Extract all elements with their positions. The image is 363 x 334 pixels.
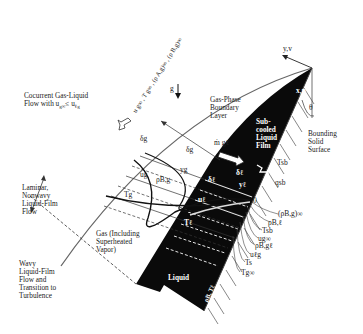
delta-g-mid-label: δg — [186, 145, 193, 154]
gas-region-label: Gas (Including Superheated Vapor) — [96, 230, 140, 254]
liquid-region-label: Liquid — [168, 274, 189, 282]
y-l-label: yℓ — [239, 180, 246, 189]
u-l-label: uℓ — [198, 195, 205, 204]
u-g-label: ug — [140, 170, 148, 179]
mdot-label: ṁ gℓ — [214, 138, 229, 147]
flow-description-label: Cocurrent Gas-Liquid Flow with ug∞≤ uℓg — [24, 92, 88, 111]
gas-boundary-layer-label: Gas-Phase Boundary Layer — [210, 96, 241, 120]
delta-l-right-label: δℓ — [236, 168, 243, 177]
t-l-label: Tℓ — [184, 218, 192, 227]
delta-g-top-label: δg — [140, 134, 147, 143]
delta-l-left-label: δℓ — [208, 175, 215, 184]
rho-bg-label: ρB,g — [156, 175, 170, 184]
wavy-region-label: Wavy Liquid-Film Flow and Transition to … — [19, 260, 56, 300]
t-g-label: Tg — [124, 190, 132, 199]
y-axis-arrow — [284, 56, 312, 68]
x-axis-label: x,u — [296, 86, 306, 95]
delta-g-dimension — [161, 121, 220, 160]
laminar-region-label: Laminar, Nonwavy Liquid-Film Flow — [22, 184, 58, 216]
bounding-solid-surface-label: Bounding Solid Surface — [308, 130, 337, 154]
legend-item-t-s: Ts — [245, 258, 252, 267]
legend-item-rho-bgl: ρB,gℓ — [255, 241, 273, 250]
subcooled-liquid-film-label: Sub- cooled Liquid Film — [256, 118, 277, 150]
theta-label: θ — [309, 103, 313, 112]
gravity-label: g — [170, 84, 174, 93]
y-axis-label: y,v — [283, 44, 292, 53]
flow-direction-arrow — [118, 118, 131, 130]
legend-item-rho-bg-inf: (ρB,g)∞ — [278, 209, 303, 218]
legend-item-t-g-inf: Tg∞ — [241, 268, 255, 277]
origin-label: 0 — [253, 196, 257, 205]
q-sb-label: qsb — [275, 178, 285, 187]
y-g-label: yg — [180, 165, 188, 174]
t-sb-label: Tsb — [277, 158, 288, 167]
